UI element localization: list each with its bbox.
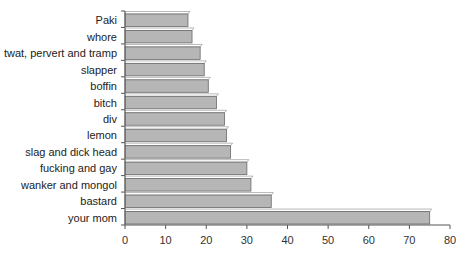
- category-label: whore: [86, 31, 117, 43]
- x-tick-label: 10: [160, 234, 172, 246]
- category-label: fucking and gay: [40, 162, 118, 174]
- category-labels: your mombastardwanker and mongolfucking …: [4, 14, 118, 224]
- category-label: slapper: [81, 64, 117, 76]
- x-tick-label: 30: [241, 234, 253, 246]
- bar-bastard: [125, 195, 271, 207]
- category-label: div: [103, 113, 118, 125]
- bar-twat-pervert-and-tramp: [125, 47, 200, 59]
- x-axis-ticks: 01020304050607080: [122, 225, 456, 246]
- bar-fucking-and-gay: [125, 162, 247, 174]
- bar-paki: [125, 14, 188, 26]
- x-tick-label: 0: [122, 234, 128, 246]
- x-tick-label: 80: [444, 234, 456, 246]
- bar-slag-and-dick-head: [125, 146, 231, 158]
- category-label: lemon: [87, 129, 117, 141]
- bar-slapper: [125, 63, 204, 75]
- x-tick-label: 20: [200, 234, 212, 246]
- category-label: wanker and mongol: [20, 179, 117, 191]
- x-tick-label: 50: [322, 234, 334, 246]
- bar-lemon: [125, 129, 227, 141]
- bar-your-mom: [125, 212, 430, 224]
- category-label: boffin: [90, 80, 117, 92]
- category-label: your mom: [68, 212, 117, 224]
- bars-group: [125, 12, 432, 225]
- y-axis-ticks: [121, 11, 125, 225]
- category-label: bitch: [94, 97, 117, 109]
- category-label: twat, pervert and tramp: [4, 47, 117, 59]
- bar-bitch: [125, 96, 216, 108]
- bar-div: [125, 113, 225, 125]
- category-label: Paki: [96, 14, 117, 26]
- bar-whore: [125, 30, 192, 42]
- x-tick-label: 40: [281, 234, 293, 246]
- category-label: bastard: [80, 195, 117, 207]
- bar-wanker-and-mongol: [125, 179, 251, 191]
- x-tick-label: 60: [363, 234, 375, 246]
- x-tick-label: 70: [403, 234, 415, 246]
- category-label: slag and dick head: [25, 146, 117, 158]
- bar-boffin: [125, 80, 208, 92]
- horizontal-bar-chart: your mombastardwanker and mongolfucking …: [0, 0, 466, 259]
